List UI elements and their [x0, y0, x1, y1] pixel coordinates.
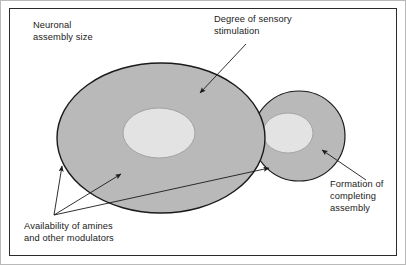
small-assembly-core-ellipse: [263, 113, 313, 153]
label-neuronal-assembly-size: Neuronal assembly size: [33, 19, 93, 43]
label-formation-of-completing-assembly: Formation of completing assembly: [330, 178, 383, 215]
figure-container: Neuronal assembly size Degree of sensory…: [0, 0, 406, 265]
label-availability-of-amines: Availability of amines and other modulat…: [24, 220, 114, 244]
large-assembly-core-ellipse: [123, 108, 195, 158]
label-degree-of-sensory-stimulation: Degree of sensory stimulation: [214, 13, 292, 37]
availability-arrow-upper-left: [54, 166, 62, 215]
